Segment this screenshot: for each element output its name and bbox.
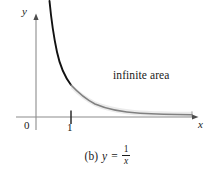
annotation-infinite-area: infinite area [113, 70, 170, 82]
caption-variable: y [102, 151, 107, 163]
caption-index: (b) [85, 151, 98, 163]
figure-caption: (b)y= 1 x [0, 146, 215, 168]
caption-fraction: 1 x [122, 145, 131, 167]
tick-label-one: 1 [67, 122, 73, 133]
curve-hyperbola-dark [50, 1, 72, 85]
fraction-denominator: x [122, 157, 131, 167]
axis-label-y: y [22, 6, 27, 17]
y-axis-arrowhead-icon [33, 14, 38, 21]
caption-equals-sign: = [111, 151, 118, 163]
tick-label-origin: 0 [24, 120, 30, 131]
figure-container: y x 0 1 infinite area (b)y= 1 x [0, 0, 215, 172]
axis-label-x: x [198, 119, 203, 130]
fraction-numerator: 1 [122, 145, 131, 155]
